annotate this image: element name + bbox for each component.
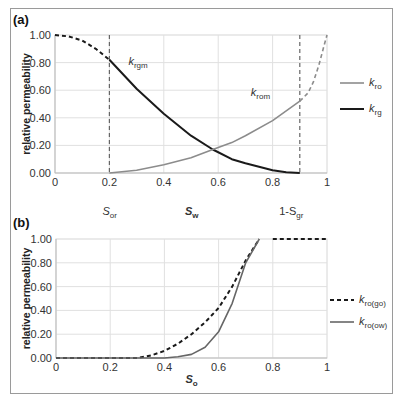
y-tick-label: 1.00	[30, 29, 51, 41]
y-tick-label: 0.20	[30, 139, 51, 151]
legend-label: krg	[369, 102, 382, 117]
x-tick-label: 1	[324, 361, 330, 373]
y-tick-label: 0.20	[31, 328, 52, 340]
y-tick-label: 0.80	[30, 57, 51, 69]
plot-area	[55, 35, 327, 173]
legend-label: kro(go)	[359, 293, 386, 308]
y-tick-label: 0.00	[30, 167, 51, 179]
y-axis-label: relative permeability	[20, 53, 32, 155]
x-tick-label: 0.4	[156, 176, 171, 188]
x-tick-label: 0.8	[265, 361, 280, 373]
y-tick-label: 0.40	[31, 304, 52, 316]
x-axis-label: So	[186, 373, 198, 388]
legend-label: kro(ow)	[359, 315, 388, 330]
panel-b: 00.20.40.60.810.000.200.400.600.801.00(b…	[13, 215, 388, 388]
panel-label: (a)	[13, 12, 29, 27]
x-tick-label: 0.6	[211, 176, 226, 188]
x-tick-label: 0	[52, 176, 58, 188]
x-annotation: 1-Sgr	[279, 205, 304, 220]
x-tick-label: 0	[53, 361, 59, 373]
y-tick-label: 1.00	[31, 233, 52, 245]
x-tick-label: 0.2	[103, 361, 118, 373]
panel-label: (b)	[13, 215, 30, 230]
x-tick-label: 1	[324, 176, 330, 188]
x-tick-label: 0.8	[265, 176, 280, 188]
y-tick-label: 0.60	[31, 281, 52, 293]
x-axis-label: Sw	[185, 205, 199, 220]
y-tick-label: 0.60	[30, 84, 51, 96]
legend-label: kro	[369, 76, 382, 91]
y-axis-label: relative permeability	[20, 248, 32, 350]
x-tick-label: 0.4	[157, 361, 172, 373]
caption-clipped	[0, 398, 401, 404]
x-annotation: Sor	[102, 205, 117, 220]
panel-a: 00.20.40.60.810.000.200.400.600.801.00(a…	[13, 12, 382, 220]
figure-svg: 00.20.40.60.810.000.200.400.600.801.00(a…	[0, 0, 401, 404]
y-tick-label: 0.80	[31, 257, 52, 269]
plot-area	[56, 239, 327, 358]
x-tick-label: 0.6	[211, 361, 226, 373]
x-tick-label: 0.2	[102, 176, 117, 188]
y-tick-label: 0.00	[31, 352, 52, 364]
y-tick-label: 0.40	[30, 112, 51, 124]
